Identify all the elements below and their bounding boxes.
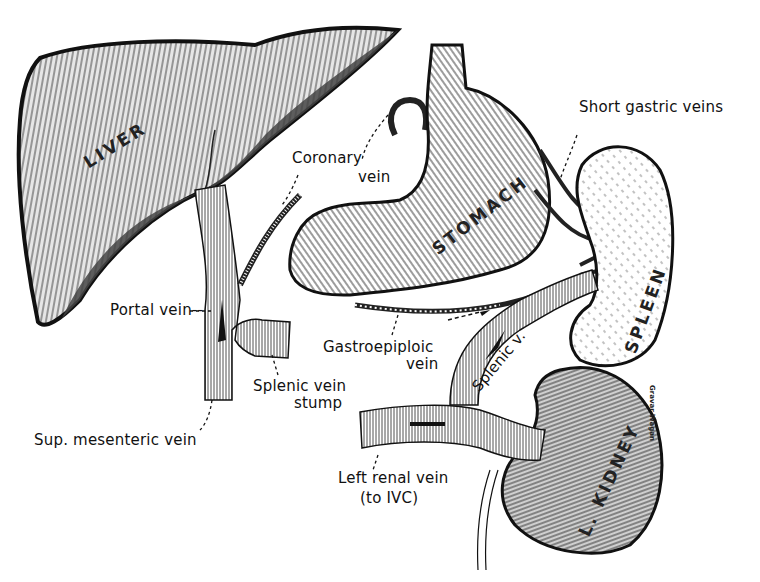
left-renal-vein-label: Left renal vein — [338, 470, 448, 487]
sup-mesenteric-vein-label: Sup. mesenteric vein — [34, 432, 197, 449]
left-renal-vein-shape — [360, 405, 545, 460]
anatomy-diagram: LIVER STOMACH SPLEEN L. KIDNEY Coronary … — [0, 0, 760, 582]
coronary-vein-label-2: vein — [358, 169, 391, 186]
portal-vein-label: Portal vein-- — [110, 302, 203, 319]
short-gastric-veins-label: Short gastric veins — [579, 99, 723, 116]
gastroepiploic-vein-label: Gastroepiploic — [323, 339, 434, 356]
coronary-vein-label: Coronary — [292, 150, 362, 167]
splenic-vein-stump-label-2: stump — [294, 395, 342, 412]
artist-signature: Gravar Wagan — [648, 385, 656, 441]
left-renal-vein-label-2: (to IVC) — [360, 490, 418, 507]
ureter-shape — [478, 470, 491, 570]
gastroepiploic-vein-label-2: vein — [406, 356, 439, 373]
spleen-shape — [571, 147, 673, 366]
splenic-vein-stump-label: Splenic vein — [253, 378, 346, 395]
